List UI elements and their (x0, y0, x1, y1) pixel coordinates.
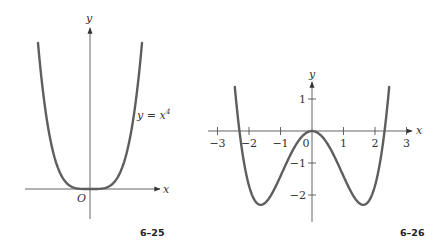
figure-label-6-26: 6–26 (400, 227, 425, 238)
x-tick-label: 0 (303, 137, 310, 150)
x-tick-label: −3 (209, 137, 225, 150)
x-axis-label: x (416, 124, 423, 137)
y-tick-label: 1 (299, 93, 306, 106)
chart-6-25: y x O y = x4 6–25 (25, 12, 171, 238)
x-tick-label: −1 (272, 137, 288, 150)
function-label: y = x4 (136, 107, 171, 122)
figure-canvas: y x O y = x4 6–25 y x −3−2−10123 1−1−2 6… (0, 0, 438, 252)
y-tick-label: −2 (290, 189, 306, 202)
origin-label: O (77, 192, 86, 205)
figure-label-6-25: 6–25 (140, 227, 165, 238)
x-axis-label: x (163, 183, 170, 196)
x-tick-label: 2 (372, 137, 379, 150)
y-axis-label: y (85, 12, 93, 25)
x-tick-label: 3 (403, 137, 410, 150)
y-axis-label: y (308, 68, 316, 81)
x-tick-label: 1 (340, 137, 347, 150)
chart-6-26: y x −3−2−10123 1−1−2 6–26 (208, 68, 425, 238)
y-tick-label: −1 (290, 157, 306, 170)
x-tick-label: −2 (241, 137, 257, 150)
